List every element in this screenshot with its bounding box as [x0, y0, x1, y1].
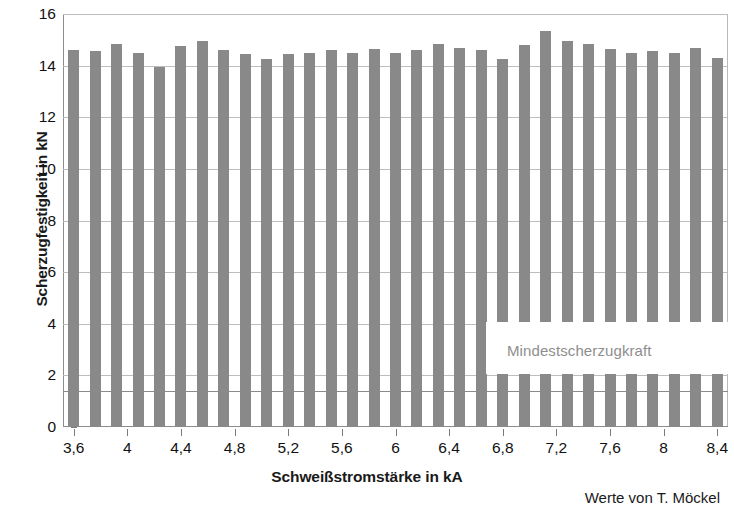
y-axis-tick-label: 12 — [16, 108, 56, 126]
x-axis-tick-label: 7,2 — [546, 439, 568, 457]
bar — [326, 50, 337, 427]
bar — [261, 59, 272, 427]
y-axis-tick-label: 14 — [16, 57, 56, 75]
minimum-shear-force-label: Mindestscherzugkraft — [507, 342, 652, 359]
x-axis-tick-label: 4,8 — [224, 439, 246, 457]
x-axis-tick-label: 7,6 — [599, 439, 621, 457]
bar — [390, 53, 401, 427]
y-axis-tick-label: 8 — [16, 212, 56, 230]
x-axis-tick-label: 3,6 — [63, 439, 85, 457]
minimum-shear-force-line — [63, 391, 728, 392]
x-axis-tick-mark — [396, 429, 397, 436]
x-axis-tick-mark — [74, 429, 75, 436]
x-axis-tick-label: 4,4 — [170, 439, 192, 457]
x-axis-tick-mark — [288, 429, 289, 436]
bar — [68, 50, 79, 427]
x-axis-tick-label: 4 — [123, 439, 132, 457]
x-axis-tick-mark — [717, 429, 718, 436]
bar — [175, 46, 186, 427]
x-axis-title: Schweißstromstärke in kA — [0, 468, 734, 486]
x-axis-tick-mark — [342, 429, 343, 436]
x-axis-tick-mark — [181, 429, 182, 436]
x-axis-tick-mark — [556, 429, 557, 436]
y-axis-tick-label: 10 — [16, 160, 56, 178]
x-axis-tick-label: 6,8 — [492, 439, 514, 457]
x-axis-tick-mark — [127, 429, 128, 436]
y-axis-tick-mark — [71, 427, 77, 428]
x-axis-tick-mark — [610, 429, 611, 436]
bar — [197, 41, 208, 427]
bar — [218, 50, 229, 427]
x-axis-tick-mark — [449, 429, 450, 436]
y-axis-tick-label: 16 — [16, 5, 56, 23]
y-axis-tick-label: 0 — [16, 418, 56, 436]
x-axis-tick-label: 8 — [659, 439, 668, 457]
bar — [454, 48, 465, 427]
x-axis-tick-mark — [235, 429, 236, 436]
bar — [240, 54, 251, 427]
bar — [111, 44, 122, 427]
chart-root: Scherzugfestigkeit in kN 0246810121416 M… — [0, 0, 734, 511]
bar — [433, 44, 444, 427]
x-axis-tick-mark — [664, 429, 665, 436]
bar — [411, 50, 422, 427]
chart-credit: Werte von T. Möckel — [585, 489, 720, 506]
x-axis-tick-label: 8,4 — [706, 439, 728, 457]
x-axis-tick-label: 6 — [391, 439, 400, 457]
y-axis-tick-label: 2 — [16, 366, 56, 384]
y-axis-tick-label: 4 — [16, 315, 56, 333]
x-axis-tick-label: 5,6 — [331, 439, 353, 457]
x-axis-tick-label: 6,4 — [438, 439, 460, 457]
y-axis-tick-label: 6 — [16, 263, 56, 281]
y-axis-tick-labels: 0246810121416 — [8, 0, 56, 441]
x-axis-tick-mark — [503, 429, 504, 436]
bar — [90, 51, 101, 427]
x-axis-tick-label: 5,2 — [277, 439, 299, 457]
bar — [133, 53, 144, 427]
plot-area: Mindestscherzugkraft — [63, 14, 728, 427]
bar — [347, 53, 358, 427]
bar — [283, 54, 294, 427]
bar — [369, 49, 380, 427]
bar — [304, 53, 315, 427]
x-axis-tick-labels: 3,644,44,85,25,666,46,87,27,688,4 — [63, 429, 728, 459]
bar — [154, 67, 165, 427]
